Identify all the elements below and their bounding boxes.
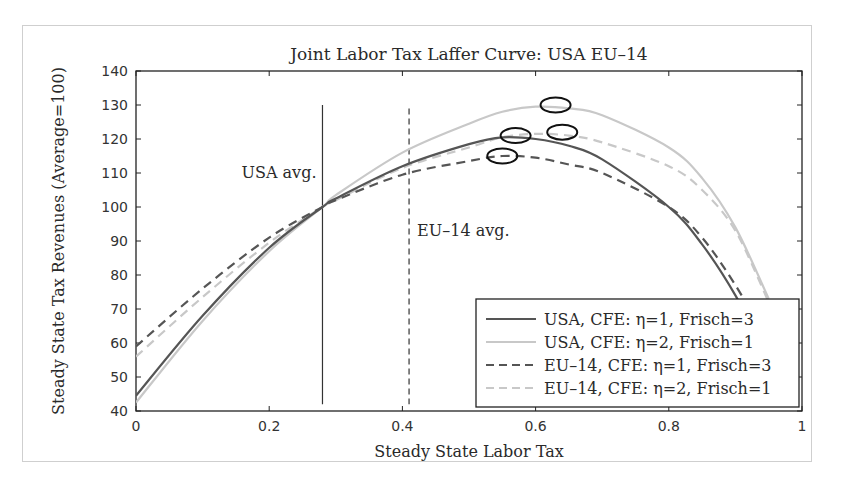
eu14-avg-label: EU–14 avg. <box>417 221 510 240</box>
y-tick-label: 50 <box>110 369 128 385</box>
y-tick-label: 100 <box>101 199 128 215</box>
legend: USA, CFE: η=1, Frisch=3USA, CFE: η=2, Fr… <box>476 299 799 407</box>
y-tick-label: 110 <box>101 165 128 181</box>
y-tick-label: 130 <box>101 97 128 113</box>
laffer-curve-chart: Joint Labor Tax Laffer Curve: USA EU–14 … <box>0 0 841 497</box>
usa-avg-label: USA avg. <box>241 163 316 182</box>
x-tick-label: 1 <box>798 418 807 434</box>
x-tick-label: 0.6 <box>524 418 546 434</box>
x-tick-label: 0.8 <box>658 418 680 434</box>
chart-title: Joint Labor Tax Laffer Curve: USA EU–14 <box>288 44 647 64</box>
y-tick-label: 60 <box>110 335 128 351</box>
y-tick-label: 40 <box>110 403 128 419</box>
legend-label: EU–14, CFE: η=1, Frisch=3 <box>544 356 771 375</box>
x-tick-label: 0 <box>132 418 141 434</box>
peak-marker <box>541 98 571 113</box>
x-axis-label: Steady State Labor Tax <box>374 442 563 461</box>
figure-caption-cutoff <box>30 482 830 497</box>
y-tick-label: 80 <box>110 267 128 283</box>
y-tick-label: 70 <box>110 301 128 317</box>
y-tick-label: 90 <box>110 233 128 249</box>
peak-marker <box>547 125 577 140</box>
x-tick-label: 0.4 <box>391 418 413 434</box>
y-tick-label: 120 <box>101 131 128 147</box>
y-axis-label: Steady State Tax Revenues (Average=100) <box>49 67 68 415</box>
peak-marker <box>501 128 531 143</box>
legend-label: USA, CFE: η=1, Frisch=3 <box>544 310 754 329</box>
legend-label: EU–14, CFE: η=2, Frisch=1 <box>544 379 771 398</box>
y-tick-label: 140 <box>101 63 128 79</box>
x-tick-label: 0.2 <box>258 418 280 434</box>
legend-label: USA, CFE: η=2, Frisch=1 <box>544 333 754 352</box>
